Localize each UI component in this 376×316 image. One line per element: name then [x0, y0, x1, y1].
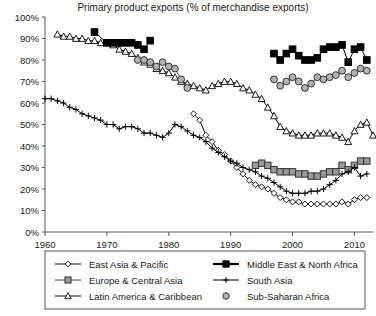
primary-product-exports-chart: Primary product exports (% of merchandis… [0, 0, 376, 316]
marker-diamond [364, 195, 370, 201]
marker-diamond [358, 195, 364, 201]
marker-circle-gray [332, 72, 339, 79]
marker-square-filled [271, 50, 278, 57]
marker-triangle [370, 132, 376, 138]
marker-diamond [302, 201, 308, 207]
y-tick-label: 30% [20, 162, 40, 173]
marker-square-gray [326, 169, 332, 175]
legend-label: South Asia [247, 275, 293, 286]
marker-square-gray [277, 169, 283, 175]
marker-triangle [116, 46, 123, 52]
marker-square-filled [326, 44, 333, 51]
y-tick-label: 60% [20, 98, 40, 109]
marker-circle-gray [289, 74, 296, 81]
marker-square-filled [289, 46, 296, 53]
y-tick-label: 80% [20, 55, 40, 66]
marker-diamond [327, 201, 333, 207]
marker-circle-gray [223, 293, 229, 299]
y-tick-label: 40% [20, 141, 40, 152]
y-tick-label: 50% [20, 119, 40, 130]
marker-square-filled [116, 40, 123, 47]
marker-square-gray [296, 171, 302, 177]
marker-triangle [203, 87, 210, 93]
marker-triangle [357, 121, 364, 127]
marker-square-gray [320, 171, 326, 177]
marker-circle-gray [178, 76, 185, 83]
series-south-asia [42, 96, 370, 197]
marker-circle-gray [339, 67, 346, 74]
x-tick-label: 1970 [96, 239, 117, 250]
marker-square-filled [223, 261, 229, 267]
marker-diamond [345, 201, 351, 207]
marker-triangle [209, 82, 216, 88]
marker-square-gray [364, 158, 370, 164]
marker-circle-gray [351, 70, 358, 77]
marker-diamond [277, 195, 283, 201]
marker-circle-gray [277, 82, 284, 89]
marker-triangle [332, 132, 339, 138]
marker-circle-gray [159, 59, 166, 66]
marker-triangle [246, 87, 253, 93]
marker-square-gray [265, 162, 271, 168]
marker-square-filled [320, 46, 327, 53]
y-tick-label: 70% [20, 76, 40, 87]
x-tick-label: 2000 [282, 239, 303, 250]
marker-diamond [314, 201, 320, 207]
legend-label: Middle East & North Africa [247, 259, 359, 270]
marker-triangle [345, 138, 352, 144]
marker-circle-gray [302, 85, 309, 92]
marker-square-gray [314, 173, 320, 179]
marker-diamond [252, 182, 258, 188]
marker-square-filled [104, 40, 111, 47]
marker-circle-gray [172, 65, 179, 72]
chart-container: Primary product exports (% of merchandis… [0, 0, 376, 316]
marker-diamond [296, 199, 302, 205]
marker-diamond [271, 190, 277, 196]
marker-square-gray [252, 162, 258, 168]
legend-label: Latin America & Caribbean [89, 291, 202, 302]
marker-circle-gray [147, 59, 154, 66]
marker-square-filled [345, 59, 352, 66]
y-tick-label: 0% [25, 227, 39, 238]
marker-diamond [259, 184, 265, 190]
marker-square-filled [314, 55, 321, 62]
marker-circle-gray [345, 74, 352, 81]
marker-square-gray [333, 169, 339, 175]
marker-square-filled [91, 29, 98, 36]
marker-triangle [252, 91, 259, 97]
marker-triangle [196, 85, 203, 91]
marker-diamond [339, 199, 345, 205]
marker-triangle [233, 80, 240, 86]
marker-square-filled [277, 57, 284, 64]
marker-circle-gray [308, 80, 315, 87]
marker-triangle [339, 134, 346, 140]
marker-square-filled [122, 40, 129, 47]
marker-square-filled [364, 57, 371, 64]
marker-square-filled [357, 44, 364, 51]
legend-label: East Asia & Pacific [89, 259, 168, 270]
marker-circle-gray [295, 78, 302, 85]
chart-title: Primary product exports (% of merchandis… [77, 2, 308, 13]
marker-square-filled [283, 50, 290, 57]
marker-square-filled [308, 57, 315, 64]
x-tick-label: 2010 [344, 239, 365, 250]
marker-square-gray [302, 171, 308, 177]
marker-square-gray [339, 162, 345, 168]
marker-diamond [308, 201, 314, 207]
marker-square-filled [295, 52, 302, 59]
marker-square-gray [283, 169, 289, 175]
marker-square-filled [128, 40, 135, 47]
x-tick-label: 1990 [220, 239, 241, 250]
marker-circle-gray [153, 63, 160, 70]
marker-triangle [277, 123, 284, 129]
series-middle-east-north-africa [91, 29, 370, 66]
marker-triangle [215, 80, 222, 86]
marker-square-gray [308, 173, 314, 179]
marker-square-gray [258, 160, 264, 166]
marker-diamond [320, 201, 326, 207]
marker-circle-gray [283, 78, 290, 85]
y-tick-label: 10% [20, 205, 40, 216]
marker-triangle [122, 48, 129, 54]
marker-triangle [240, 85, 247, 91]
marker-circle-gray [363, 67, 370, 74]
